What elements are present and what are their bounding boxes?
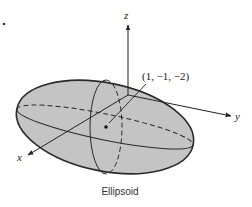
z-axis-label: z [124,10,128,21]
stray-dot [3,23,6,26]
center-point [104,125,108,129]
figure-caption: Ellipsoid [0,186,240,197]
y-axis-label: y [235,111,240,122]
ellipsoid-diagram [0,0,252,207]
point-label: (1, −1, −2) [142,71,189,82]
x-axis-label: x [17,152,22,163]
